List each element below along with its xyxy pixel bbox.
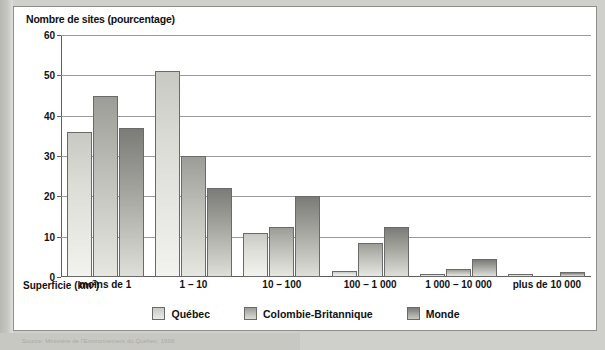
- legend-swatch: [244, 307, 257, 320]
- scan-background: Source: Ministère de l'Environnement du …: [0, 0, 605, 350]
- x-axis-tick-label: 100 – 1 000: [344, 279, 397, 290]
- bar-group: [238, 35, 326, 277]
- source-caption: Source: Ministère de l'Environnement du …: [22, 338, 174, 344]
- bar: [358, 243, 383, 277]
- bar: [420, 274, 445, 277]
- legend-label: Québec: [171, 308, 210, 320]
- legend-label: Colombie-Britannique: [263, 308, 373, 320]
- bar: [207, 188, 232, 277]
- bar: [67, 132, 92, 277]
- bar: [119, 128, 144, 277]
- page-margin-strip: [0, 0, 13, 350]
- bar: [384, 227, 409, 277]
- y-axis-tick-label: 50: [44, 70, 55, 81]
- chart-figure: Nombre de sites (pourcentage) 0102030405…: [13, 6, 597, 331]
- bar: [93, 96, 118, 278]
- y-axis-tick-label: 20: [44, 191, 55, 202]
- bar-group: [149, 35, 237, 277]
- x-axis-tick-label: 1 000 – 10 000: [425, 279, 492, 290]
- y-axis-tick-mark: [57, 277, 61, 278]
- legend-item[interactable]: Colombie-Britannique: [244, 307, 373, 320]
- y-axis-tick-label: 10: [44, 231, 55, 242]
- legend-swatch: [407, 307, 420, 320]
- chart-title: Nombre de sites (pourcentage): [26, 13, 175, 25]
- bar-group: [414, 35, 502, 277]
- x-axis-tick-label: 1 – 10: [180, 279, 208, 290]
- legend-swatch: [152, 307, 165, 320]
- y-axis-tick-label: 40: [44, 110, 55, 121]
- legend-label: Monde: [426, 308, 460, 320]
- bar: [269, 227, 294, 277]
- x-axis-tick-label: moins de 1: [79, 279, 131, 290]
- legend-item[interactable]: Monde: [407, 307, 460, 320]
- x-axis-tick-label: plus de 10 000: [513, 279, 581, 290]
- bar: [243, 233, 268, 277]
- bar: [332, 271, 357, 277]
- bar-series-container: [61, 35, 591, 277]
- x-axis-tick-label: 10 – 100: [262, 279, 301, 290]
- bar: [472, 259, 497, 277]
- bar: [508, 274, 533, 277]
- bar: [295, 196, 320, 277]
- legend-item[interactable]: Québec: [152, 307, 210, 320]
- bar: [560, 272, 585, 277]
- y-axis-tick-label: 30: [44, 151, 55, 162]
- y-axis-tick-label: 60: [44, 30, 55, 41]
- bar: [155, 71, 180, 277]
- chart-legend: QuébecColombie-BritanniqueMonde: [14, 307, 598, 320]
- bar-group: [503, 35, 591, 277]
- bar: [181, 156, 206, 277]
- plot-area: 0102030405060: [61, 35, 591, 277]
- bar-group: [326, 35, 414, 277]
- bar-group: [61, 35, 149, 277]
- bar: [446, 269, 471, 277]
- x-axis-labels: moins de 11 – 1010 – 100100 – 1 0001 000…: [61, 279, 591, 295]
